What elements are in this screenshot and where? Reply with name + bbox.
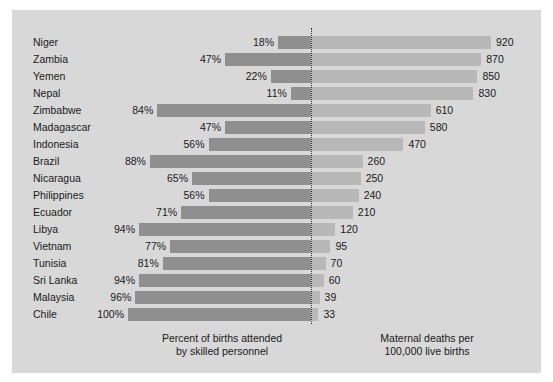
left-value-label: 56%: [163, 188, 205, 203]
left-bar: [170, 240, 311, 253]
category-label: Zambia: [33, 52, 113, 67]
right-bar: [312, 291, 320, 304]
category-label: Brazil: [33, 154, 113, 169]
chart-row: Libya94%120: [12, 222, 541, 237]
chart-row: Yemen22%850: [12, 69, 541, 84]
right-value-label: 250: [366, 171, 384, 186]
right-bar: [312, 155, 363, 168]
right-value-label: 39: [325, 290, 337, 305]
left-value-label: 88%: [104, 154, 146, 169]
left-bar: [192, 172, 311, 185]
right-bar: [312, 189, 359, 202]
right-axis-caption: Maternal deaths per 100,000 live births: [342, 332, 512, 358]
category-label: Yemen: [33, 69, 113, 84]
left-value-label: 77%: [124, 239, 166, 254]
right-value-label: 870: [486, 52, 504, 67]
plot-area: Niger18%920Zambia47%870Yemen22%850Nepal1…: [12, 10, 541, 373]
chart-row: Malaysia96%39: [12, 290, 541, 305]
right-caption-line-1: Maternal deaths per: [342, 332, 512, 345]
category-label: Zimbabwe: [33, 103, 113, 118]
left-bar: [225, 53, 311, 66]
left-caption-line-1: Percent of births attended: [132, 332, 312, 345]
right-bar: [312, 172, 361, 185]
left-bar: [128, 308, 311, 321]
left-value-label: 65%: [146, 171, 188, 186]
right-bar: [312, 53, 481, 66]
category-label: Philippines: [33, 188, 113, 203]
right-value-label: 610: [436, 103, 454, 118]
chart-row: Nepal11%830: [12, 86, 541, 101]
left-bar: [278, 36, 311, 49]
left-value-label: 81%: [117, 256, 159, 271]
right-bar: [312, 206, 353, 219]
right-bar: [312, 138, 403, 151]
right-bar: [312, 36, 491, 49]
left-axis-caption: Percent of births attended by skilled pe…: [132, 332, 312, 358]
right-value-label: 850: [482, 69, 500, 84]
category-label: Niger: [33, 35, 113, 50]
right-value-label: 33: [323, 307, 335, 322]
left-bar: [150, 155, 311, 168]
category-label: Vietnam: [33, 239, 113, 254]
left-value-label: 96%: [89, 290, 131, 305]
category-label: Nicaragua: [33, 171, 113, 186]
left-value-label: 94%: [93, 222, 135, 237]
left-value-label: 56%: [163, 137, 205, 152]
right-value-label: 95: [335, 239, 347, 254]
left-bar: [209, 189, 311, 202]
left-bar: [139, 274, 311, 287]
left-bar: [135, 291, 311, 304]
chart-row: Ecuador71%210: [12, 205, 541, 220]
chart-row: Brazil88%260: [12, 154, 541, 169]
left-bar: [157, 104, 311, 117]
chart-row: Chile100%33: [12, 307, 541, 322]
right-bar: [312, 87, 473, 100]
right-bar: [312, 70, 477, 83]
left-bar: [271, 70, 311, 83]
right-bar: [312, 223, 335, 236]
chart-row: Zambia47%870: [12, 52, 541, 67]
chart-row: Philippines56%240: [12, 188, 541, 203]
right-caption-line-2: 100,000 live births: [342, 345, 512, 358]
center-divider-line: [311, 28, 312, 324]
category-label: Indonesia: [33, 137, 113, 152]
chart-row: Zimbabwe84%610: [12, 103, 541, 118]
left-bar: [139, 223, 311, 236]
right-bar: [312, 104, 431, 117]
right-bar: [312, 308, 318, 321]
category-label: Madagascar: [33, 120, 113, 135]
category-label: Tunisia: [33, 256, 113, 271]
left-bar: [181, 206, 311, 219]
left-value-label: 47%: [179, 120, 221, 135]
left-value-label: 22%: [225, 69, 267, 84]
left-bar: [225, 121, 311, 134]
left-value-label: 84%: [111, 103, 153, 118]
right-value-label: 240: [364, 188, 382, 203]
chart-row: Madagascar47%580: [12, 120, 541, 135]
right-value-label: 70: [331, 256, 343, 271]
chart-row: Sri Lanka94%60: [12, 273, 541, 288]
right-value-label: 210: [358, 205, 376, 220]
category-label: Nepal: [33, 86, 113, 101]
right-value-label: 60: [329, 273, 341, 288]
left-bar: [291, 87, 311, 100]
left-value-label: 47%: [179, 52, 221, 67]
chart-row: Niger18%920: [12, 35, 541, 50]
right-value-label: 830: [478, 86, 496, 101]
right-value-label: 120: [340, 222, 358, 237]
right-value-label: 580: [430, 120, 448, 135]
left-value-label: 100%: [82, 307, 124, 322]
chart-row: Nicaragua65%250: [12, 171, 541, 186]
right-value-label: 470: [408, 137, 426, 152]
left-value-label: 71%: [135, 205, 177, 220]
left-value-label: 11%: [245, 86, 287, 101]
right-value-label: 260: [368, 154, 386, 169]
category-label: Ecuador: [33, 205, 113, 220]
left-value-label: 94%: [93, 273, 135, 288]
left-value-label: 18%: [232, 35, 274, 50]
chart-row: Tunisia81%70: [12, 256, 541, 271]
right-value-label: 920: [496, 35, 514, 50]
left-caption-line-2: by skilled personnel: [132, 345, 312, 358]
right-bar: [312, 121, 425, 134]
right-bar: [312, 240, 330, 253]
